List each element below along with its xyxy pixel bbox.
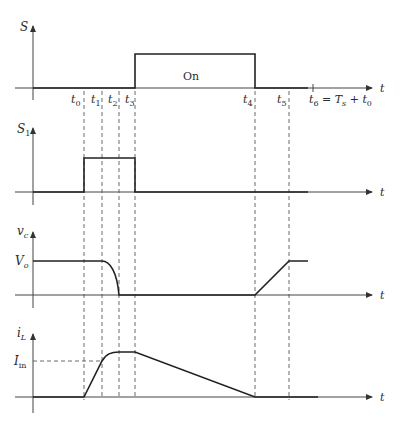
il-waveform: [33, 352, 318, 397]
timing-diagram: S t On t0 t1 t2 t3 t4 t5 t6 = Ts + t0 S1…: [0, 0, 402, 423]
vc-waveform: [33, 261, 308, 295]
t2-label: t2: [108, 93, 118, 108]
t5-label: t5: [277, 93, 287, 108]
s-waveform: [33, 54, 308, 88]
vo-level-label: Vo: [15, 254, 29, 270]
vc-y-label: vc: [17, 224, 29, 240]
on-label: On: [183, 70, 199, 83]
t0-label: t0: [71, 93, 81, 108]
t4-label: t4: [243, 93, 253, 108]
t1-label: t1: [91, 93, 101, 108]
vc-t-label: t: [380, 289, 385, 302]
s1-y-label: S1: [17, 122, 30, 138]
s1-waveform: [33, 158, 308, 192]
il-t-label: t: [380, 391, 385, 404]
panel-il: iL Iin t: [13, 326, 385, 413]
panel-s1: S1 t: [15, 122, 385, 205]
s-t-label: t: [380, 82, 385, 95]
panel-vc: vc Vo t: [15, 224, 385, 308]
iin-level-label: Iin: [13, 354, 26, 370]
t6-label: t6 = Ts + t0: [309, 93, 372, 108]
time-marker-lines: [84, 91, 289, 400]
caption-fragment: [15, 418, 385, 423]
panel-s: S t On t0 t1 t2 t3 t4 t5 t6 = Ts + t0: [15, 20, 385, 108]
s-y-label: S: [20, 20, 28, 34]
s1-t-label: t: [380, 186, 385, 199]
t3-label: t3: [125, 93, 135, 108]
il-y-label: iL: [17, 326, 26, 342]
